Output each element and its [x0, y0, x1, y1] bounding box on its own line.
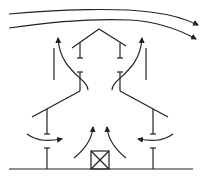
stack-airflow-arrows: [58, 38, 142, 90]
roof: [72, 29, 126, 58]
fan-box-icon: [91, 151, 109, 169]
fan-airflow-arrows: [74, 127, 126, 158]
upper-walls: [54, 48, 146, 80]
wind-flow-arrows: [9, 10, 198, 39]
airflow-diagram: [0, 0, 209, 180]
floor-plates: [32, 91, 168, 134]
side-inflow-arrows: [27, 134, 173, 140]
